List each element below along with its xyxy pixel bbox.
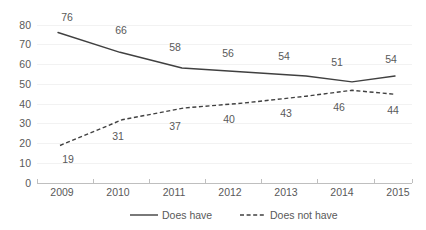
data-label-does-have-2009: 76 [61,11,73,23]
chart-legend: Does have Does not have [130,209,338,221]
x-axis-tick-labels: 2009 2010 2011 2012 2013 2014 2015 [50,186,410,198]
data-label-does-have-2012: 56 [222,47,234,59]
chart-canvas: 80 70 60 50 40 30 20 10 0 2009 2010 2011… [0,0,426,230]
line-chart: 80 70 60 50 40 30 20 10 0 2009 2010 2011… [0,0,426,230]
ytick-label-60: 60 [19,58,31,70]
data-label-does-not-have-2015: 44 [387,104,399,116]
xtick-label-2010: 2010 [106,186,130,198]
xtick-label-2015: 2015 [386,186,410,198]
data-label-does-have-2014: 51 [331,56,343,68]
xtick-label-2012: 2012 [218,186,242,198]
y-axis-tick-labels: 80 70 60 50 40 30 20 10 0 [19,19,31,189]
ytick-label-70: 70 [19,38,31,50]
xtick-label-2013: 2013 [274,186,298,198]
data-labels-does-have: 76 66 58 56 54 51 54 [61,11,397,68]
data-label-does-have-2011: 58 [169,41,181,53]
data-labels-does-not-have: 19 31 37 40 43 46 44 [62,101,399,166]
xtick-label-2011: 2011 [163,186,186,198]
ytick-label-50: 50 [19,78,31,90]
data-label-does-have-2013: 54 [278,50,290,62]
legend-label-does-not-have: Does not have [270,209,338,221]
data-label-does-not-have-2011: 37 [169,120,181,132]
xtick-label-2014: 2014 [330,186,354,198]
legend-label-does-have: Does have [162,209,212,221]
data-label-does-have-2010: 66 [115,24,127,36]
ytick-label-40: 40 [19,98,31,110]
x-axis [37,179,412,184]
ytick-label-30: 30 [19,117,31,129]
data-label-does-have-2015: 54 [385,53,397,65]
ytick-label-10: 10 [19,157,31,169]
data-label-does-not-have-2013: 43 [280,107,292,119]
ytick-label-20: 20 [19,137,31,149]
ytick-label-0: 0 [25,177,31,189]
data-label-does-not-have-2009: 19 [62,153,74,165]
data-label-does-not-have-2012: 40 [223,113,235,125]
data-label-does-not-have-2010: 31 [112,130,124,142]
data-label-does-not-have-2014: 46 [333,101,345,113]
ytick-label-80: 80 [19,19,31,31]
xtick-label-2009: 2009 [50,186,74,198]
